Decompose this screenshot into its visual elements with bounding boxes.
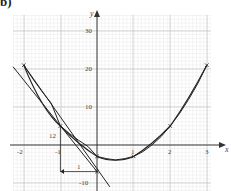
y-tick: 20 [85, 65, 93, 73]
x-tick: 2 [168, 148, 172, 156]
y-tick: 10 [85, 103, 93, 111]
run-label: 1 [77, 163, 81, 171]
x-tick: -2 [17, 148, 23, 156]
y-tick: -10 [79, 179, 89, 187]
x-axis-label: x [224, 145, 229, 154]
y-axis-arrow-icon [94, 10, 100, 17]
y-axis-label: y [89, 9, 94, 18]
y-tick: 30 [85, 27, 93, 35]
rise-label: 12 [49, 132, 57, 140]
x-tick: 3 [205, 148, 209, 156]
graph: x y -2 -1 1 2 3 30 20 10 -10 12 1 [0, 0, 231, 191]
